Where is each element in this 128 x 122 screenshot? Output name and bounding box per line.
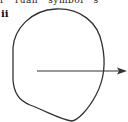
closed-curve-shape bbox=[13, 9, 104, 121]
diagram-canvas bbox=[0, 0, 128, 122]
arrow-right-icon bbox=[37, 68, 127, 75]
